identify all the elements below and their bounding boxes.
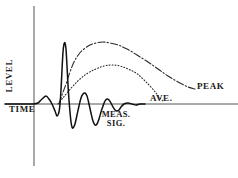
ave-annotation: AVE. bbox=[150, 94, 173, 103]
peak-annotation: PEAK bbox=[197, 82, 224, 91]
y-axis-label: LEVEL bbox=[5, 59, 14, 93]
figure-container: TIME LEVEL MEAS. SIG. AVE. PEAK bbox=[0, 0, 238, 178]
x-axis-label: TIME bbox=[9, 105, 35, 114]
series-peak-curve bbox=[59, 42, 195, 104]
series-ave-curve bbox=[58, 65, 163, 104]
meas-sig-annotation: MEAS. SIG. bbox=[95, 110, 137, 128]
meas-sig-label-line2: SIG. bbox=[95, 119, 137, 128]
